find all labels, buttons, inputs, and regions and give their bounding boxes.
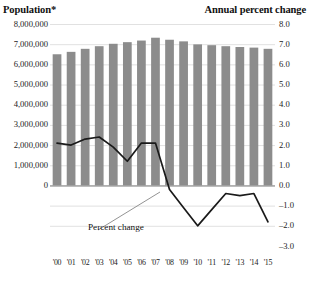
plot-area — [50, 24, 275, 246]
x-axis-tick-labels: '00'01'02'03'04'05'06'07'08'09'10'11'12'… — [50, 258, 275, 272]
right-tick-8: 8.0 — [279, 20, 290, 29]
x-tick-13: '13 — [233, 258, 247, 267]
bar-01 — [67, 52, 76, 186]
left-tick-0: 0 — [44, 181, 48, 190]
right-tick-0: 0.0 — [279, 181, 290, 190]
right-tick-3: 3.0 — [279, 120, 290, 129]
bar-07 — [151, 38, 160, 186]
left-axis-title: Population* — [3, 4, 56, 15]
bar-12 — [221, 46, 230, 185]
right-tick-1: 1.0 — [279, 161, 290, 170]
x-tick-0: '00 — [50, 258, 64, 267]
bar-00 — [53, 54, 62, 185]
right-tick--1: –1.0 — [279, 201, 294, 210]
x-tick-3: '03 — [92, 258, 106, 267]
bar-14 — [250, 48, 259, 186]
x-tick-1: '01 — [64, 258, 78, 267]
x-tick-15: '15 — [261, 258, 275, 267]
right-tick--3: –3.0 — [279, 242, 294, 251]
x-tick-7: '07 — [148, 258, 162, 267]
right-tick-2: 2.0 — [279, 141, 290, 150]
bar-09 — [179, 41, 188, 185]
bar-02 — [81, 49, 90, 186]
x-tick-14: '14 — [247, 258, 261, 267]
x-tick-8: '08 — [163, 258, 177, 267]
bar-13 — [235, 47, 244, 185]
x-tick-4: '04 — [106, 258, 120, 267]
bar-15 — [264, 49, 273, 186]
x-tick-12: '12 — [219, 258, 233, 267]
bar-04 — [109, 44, 118, 186]
x-tick-9: '09 — [177, 258, 191, 267]
left-tick-6000000: 6,000,000 — [14, 60, 48, 69]
bar-03 — [95, 46, 104, 185]
x-tick-10: '10 — [191, 258, 205, 267]
bar-06 — [137, 41, 146, 186]
left-tick-7000000: 7,000,000 — [14, 40, 48, 49]
left-tick-8000000: 8,000,000 — [14, 20, 48, 29]
population-percent-change-chart: Population* Annual percent change 01,000… — [0, 0, 310, 282]
right-tick-6: 6.0 — [279, 60, 290, 69]
x-tick-11: '11 — [205, 258, 219, 267]
right-tick--2: –2.0 — [279, 221, 294, 230]
left-tick-5000000: 5,000,000 — [14, 80, 48, 89]
percent-change-annotation: Percent change — [88, 222, 144, 232]
left-tick-1000000: 1,000,000 — [14, 161, 48, 170]
left-tick-2000000: 2,000,000 — [14, 141, 48, 150]
x-tick-6: '06 — [134, 258, 148, 267]
bar-05 — [123, 42, 132, 185]
right-axis-title: Annual percent change — [204, 4, 306, 15]
chart-canvas — [50, 24, 275, 246]
right-tick-5: 5.0 — [279, 80, 290, 89]
x-tick-5: '05 — [120, 258, 134, 267]
left-tick-4000000: 4,000,000 — [14, 100, 48, 109]
bar-10 — [193, 44, 202, 185]
right-tick-4: 4.0 — [279, 100, 290, 109]
left-tick-3000000: 3,000,000 — [14, 120, 48, 129]
right-tick-7: 7.0 — [279, 40, 290, 49]
bar-11 — [207, 45, 216, 185]
bar-08 — [165, 40, 174, 186]
x-tick-2: '02 — [78, 258, 92, 267]
